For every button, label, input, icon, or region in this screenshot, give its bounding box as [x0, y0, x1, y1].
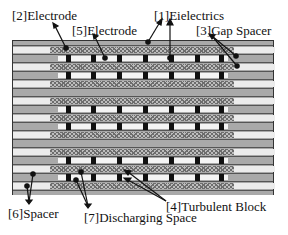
leader-lines: [0, 0, 288, 235]
arrow-head-icon: [53, 23, 58, 28]
